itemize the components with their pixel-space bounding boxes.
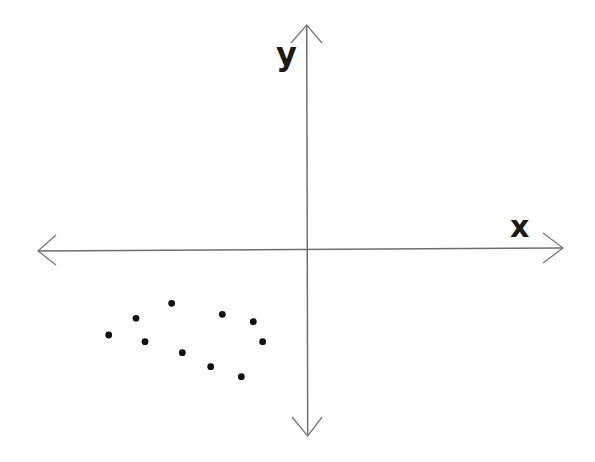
data-point: [219, 311, 226, 318]
data-point: [168, 300, 175, 307]
data-point: [142, 338, 149, 345]
y-axis-label: y: [276, 38, 297, 70]
data-point: [259, 338, 266, 345]
coordinate-plane: [0, 0, 595, 462]
data-point: [250, 318, 257, 325]
scatter-points: [105, 300, 266, 380]
data-point: [179, 349, 186, 356]
data-point: [238, 373, 245, 380]
x-axis-left-arrowhead: [38, 235, 56, 265]
data-point: [207, 363, 214, 370]
x-axis-label: x: [510, 212, 529, 242]
data-point: [133, 315, 140, 322]
y-axis: [291, 25, 322, 436]
x-axis: [38, 233, 563, 265]
data-point: [105, 332, 112, 339]
